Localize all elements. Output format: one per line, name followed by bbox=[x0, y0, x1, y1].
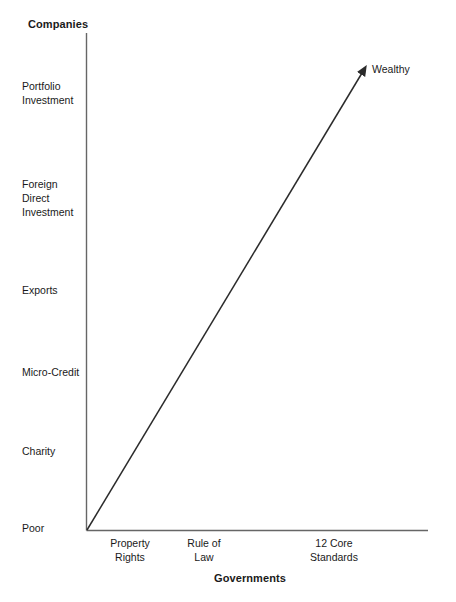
chart-canvas: Companies Portfolio Investment Foreign D… bbox=[0, 0, 456, 602]
trend-arrow-line bbox=[87, 73, 362, 530]
x-tick-line1: Rule of bbox=[162, 536, 246, 550]
y-tick-exports: Exports bbox=[22, 283, 80, 297]
y-tick-micro-credit: Micro-Credit bbox=[22, 365, 80, 379]
x-tick-line2: Law bbox=[162, 550, 246, 564]
annotation-wealthy: Wealthy bbox=[372, 62, 410, 76]
y-tick-line1: Poor bbox=[22, 521, 80, 535]
y-tick-foreign-direct-investment: Foreign Direct Investment bbox=[22, 177, 80, 219]
x-tick-12-core-standards: 12 Core Standards bbox=[292, 536, 376, 564]
y-tick-line2: Direct bbox=[22, 191, 80, 205]
y-tick-line1: Portfolio bbox=[22, 79, 80, 93]
x-tick-line1: Property bbox=[88, 536, 172, 550]
x-axis-title-wrapper: Governments bbox=[0, 572, 456, 584]
y-tick-line2: Investment bbox=[22, 93, 80, 107]
y-tick-line1: Exports bbox=[22, 283, 80, 297]
y-tick-line1: Foreign bbox=[22, 177, 80, 191]
y-tick-portfolio-investment: Portfolio Investment bbox=[22, 79, 80, 107]
y-tick-line3: Investment bbox=[22, 205, 80, 219]
x-tick-property-rights: Property Rights bbox=[88, 536, 172, 564]
y-tick-line1: Charity bbox=[22, 444, 80, 458]
y-tick-poor: Poor bbox=[22, 521, 80, 535]
x-tick-line2: Rights bbox=[88, 550, 172, 564]
x-tick-line1: 12 Core bbox=[292, 536, 376, 550]
x-axis-title: Governments bbox=[214, 572, 286, 584]
x-tick-line2: Standards bbox=[292, 550, 376, 564]
y-tick-charity: Charity bbox=[22, 444, 80, 458]
x-tick-rule-of-law: Rule of Law bbox=[162, 536, 246, 564]
y-axis-title: Companies bbox=[28, 18, 88, 30]
y-tick-line1: Micro-Credit bbox=[22, 365, 80, 379]
